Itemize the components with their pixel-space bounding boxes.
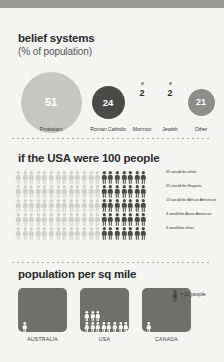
belief-bubble-chart: 51Protestant24Roman Catholic2Mormon2Jewi… [4,60,220,122]
people-row [15,170,155,184]
person-icon [101,212,108,225]
person-icon [94,170,101,183]
people-title: if the USA were 100 people [18,152,159,164]
divider-1 [12,138,212,139]
people-breakdown-item: 13 would be African American [166,198,224,212]
person-icon [68,184,75,197]
person-icon [55,226,62,239]
population-legend: = 11 people [172,288,206,300]
person-icon [123,319,129,330]
person-icon [88,198,95,211]
person-icon [35,226,42,239]
person-icon [74,184,81,197]
infographic-page: belief systems (% of population) 51Prote… [0,0,224,362]
country-figures [84,307,126,329]
person-icon [68,170,75,183]
person-icon [114,212,121,225]
person-icon [94,212,101,225]
person-icon [15,184,22,197]
person-icon [81,184,88,197]
person-icon [28,198,35,211]
person-icon [68,198,75,211]
person-icon [22,319,28,330]
person-icon [134,198,141,211]
person-icon [101,226,108,239]
person-icon [28,170,35,183]
person-icon [140,170,147,183]
belief-label-other: Other [173,126,224,132]
person-icon [127,184,134,197]
person-icon [81,226,88,239]
person-icon [28,184,35,197]
country-label-canada: CANADA [142,336,191,342]
belief-value-roman-catholic: 24 [103,97,114,108]
person-icon [74,226,81,239]
person-icon [48,226,55,239]
belief-title: belief systems [18,32,94,44]
person-icon [127,212,134,225]
person-icon [61,170,68,183]
person-icon [22,226,29,239]
people-breakdown-item: 15 would be Hispanic [166,184,224,198]
person-icon [61,198,68,211]
person-icon [114,184,121,197]
person-icon [41,184,48,197]
person-icon [107,226,114,239]
person-icon [134,212,141,225]
country-figures [146,318,188,329]
person-icon [127,226,134,239]
top-accent-bar [0,0,224,8]
belief-bubble-other: 21 [188,89,215,116]
person-icon [74,170,81,183]
person-icon [94,226,101,239]
person-icon [127,170,134,183]
person-icon [88,170,95,183]
person-icon [41,198,48,211]
person-icon [94,184,101,197]
infographic-card: belief systems (% of population) 51Prote… [4,10,220,356]
person-icon [121,212,128,225]
person-icon [68,226,75,239]
country-box-usa [80,288,129,332]
person-icon [146,319,152,330]
person-icon [35,184,42,197]
country-label-australia: AUSTRALIA [18,336,67,342]
person-icon [74,198,81,211]
person-icon [88,212,95,225]
person-icon [22,198,29,211]
person-icon [94,198,101,211]
person-icon [61,226,68,239]
people-row [15,226,155,240]
person-icon [28,212,35,225]
person-icon [121,226,128,239]
person-icon [140,212,147,225]
country-figure-row [84,318,126,329]
person-icon [114,226,121,239]
person-icon [107,198,114,211]
person-icon [88,184,95,197]
person-icon [41,212,48,225]
person-icon [101,198,108,211]
people-breakdown-item: 65 would be white [166,170,224,184]
country-label-usa: USA [80,336,129,342]
person-icon [140,184,147,197]
person-icon [55,198,62,211]
person-icon [95,308,101,319]
person-icon [81,198,88,211]
person-icon [15,170,22,183]
country-figure-row [22,318,64,329]
person-icon [107,184,114,197]
person-icon [28,226,35,239]
person-icon [15,198,22,211]
person-icon [121,198,128,211]
belief-value-mormon: 2 [128,88,156,98]
person-icon [41,226,48,239]
person-icon [61,184,68,197]
person-icon [48,184,55,197]
section-belief-systems: belief systems (% of population) 51Prote… [4,20,220,138]
person-icon [22,212,29,225]
person-icon [127,198,134,211]
person-icon [101,170,108,183]
person-icon [121,170,128,183]
section-usa-100-people: if the USA were 100 people 65 would be w… [4,144,220,248]
